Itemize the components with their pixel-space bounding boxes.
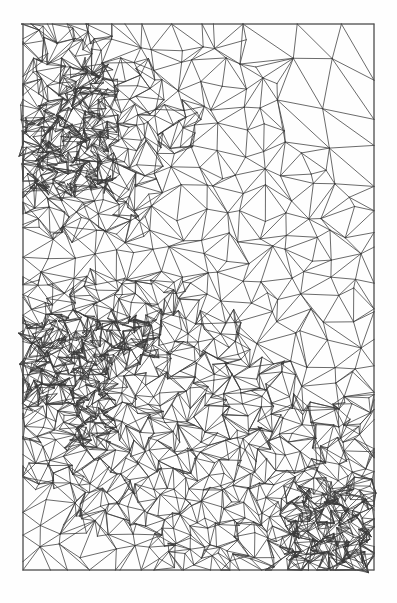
- mesh-canvas: [0, 0, 397, 603]
- mesh-figure: [0, 0, 397, 603]
- mesh-edges: [19, 24, 376, 573]
- mesh-triangulation: [19, 24, 376, 573]
